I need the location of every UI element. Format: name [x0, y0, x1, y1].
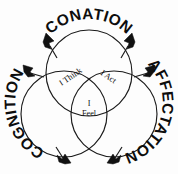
inner-label-i-feel-line2: Feel [82, 109, 97, 118]
outer-label-conation: CONATION [42, 5, 136, 37]
inner-label-i-act: I Act [99, 68, 119, 86]
arrow-left-top-icon [23, 65, 44, 77]
venn-diagram-figure: CONATION AFFECTATION COGNITION I Think I… [0, 0, 178, 174]
outer-label-cognition: COGNITION [1, 65, 46, 162]
venn-diagram-canvas: CONATION AFFECTATION COGNITION I Think I… [0, 0, 178, 174]
inner-label-i-feel-line1: I [88, 99, 91, 108]
arrow-right-bottom-icon [107, 147, 122, 164]
inner-label-i-think: I Think [57, 65, 84, 88]
arrow-left-bottom-icon [56, 147, 71, 164]
